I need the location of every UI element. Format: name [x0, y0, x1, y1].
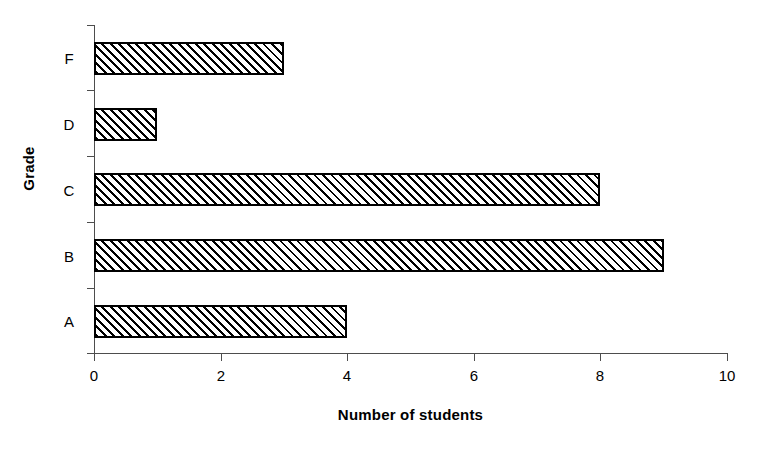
x-axis-tick — [600, 354, 601, 361]
x-axis-tick — [474, 354, 475, 361]
y-axis-tick — [87, 288, 94, 289]
x-axis-line — [94, 353, 728, 354]
y-axis-title: Grade — [20, 119, 37, 219]
x-axis-tick-label: 0 — [74, 367, 114, 385]
bar-f — [94, 42, 284, 75]
x-axis-tick-label: 10 — [707, 367, 747, 385]
x-axis-tick-label: 8 — [580, 367, 620, 385]
y-axis-tick — [87, 25, 94, 26]
y-axis-label-b: B — [56, 249, 82, 265]
bar-chart: Grade F D C B A 0 2 4 6 8 10 Number of s… — [0, 0, 773, 449]
y-axis-label-c: C — [56, 183, 82, 199]
y-axis-tick — [87, 90, 94, 91]
y-axis-label-a: A — [56, 314, 82, 330]
x-axis-tick-label: 6 — [454, 367, 494, 385]
x-axis-tick — [94, 354, 95, 361]
bar-d — [94, 108, 157, 141]
x-axis-tick-label: 2 — [201, 367, 241, 385]
x-axis-tick-label: 4 — [327, 367, 367, 385]
bar-b — [94, 239, 664, 272]
x-axis-title: Number of students — [94, 406, 727, 423]
y-axis-label-d: D — [56, 117, 82, 133]
y-axis-label-f: F — [56, 51, 82, 67]
x-axis-tick — [221, 354, 222, 361]
x-axis-tick — [347, 354, 348, 361]
y-axis-tick — [87, 156, 94, 157]
y-axis-tick — [87, 353, 94, 354]
bar-c — [94, 173, 600, 206]
bar-a — [94, 305, 347, 338]
x-axis-tick — [727, 354, 728, 361]
y-axis-tick — [87, 222, 94, 223]
